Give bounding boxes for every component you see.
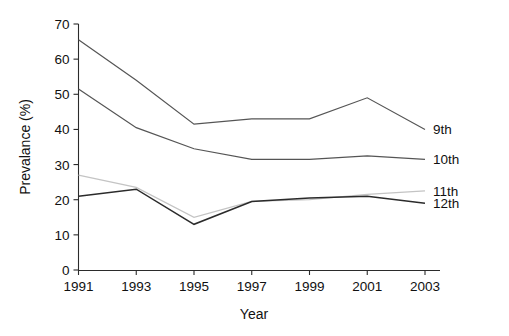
y-tick-label: 20 bbox=[54, 193, 69, 208]
y-axis: 010203040506070 Prevalance (%) bbox=[17, 17, 79, 278]
line-chart: 010203040506070 Prevalance (%) 199119931… bbox=[0, 0, 509, 336]
x-tick-label: 1995 bbox=[179, 279, 209, 294]
y-axis-tick-labels: 010203040506070 bbox=[54, 17, 69, 278]
x-tick-label: 2001 bbox=[352, 279, 382, 294]
y-tick-label: 10 bbox=[54, 228, 69, 243]
series-label-10th: 10th bbox=[433, 152, 459, 167]
y-tick-label: 0 bbox=[62, 263, 70, 278]
series-end-labels: 9th10th11th12th bbox=[433, 122, 459, 211]
y-axis-title: Prevalance (%) bbox=[17, 99, 33, 195]
x-tick-label: 2003 bbox=[410, 279, 440, 294]
x-axis-tick-labels: 1991199319951997199920012003 bbox=[63, 279, 440, 294]
chart-canvas: 010203040506070 Prevalance (%) 199119931… bbox=[0, 0, 509, 336]
series-lines bbox=[79, 40, 426, 225]
y-tick-label: 30 bbox=[54, 158, 69, 173]
x-tick-label: 1997 bbox=[237, 279, 267, 294]
series-label-9th: 9th bbox=[433, 122, 452, 137]
y-tick-label: 40 bbox=[54, 122, 69, 137]
x-tick-label: 1999 bbox=[294, 279, 324, 294]
y-tick-label: 50 bbox=[54, 87, 69, 102]
y-tick-label: 70 bbox=[54, 17, 69, 32]
x-axis-title: Year bbox=[240, 306, 269, 322]
y-tick-label: 60 bbox=[54, 52, 69, 67]
series-label-12th: 12th bbox=[433, 196, 459, 211]
series-line-9th bbox=[79, 40, 426, 130]
x-tick-label: 1993 bbox=[121, 279, 151, 294]
series-line-10th bbox=[79, 89, 426, 159]
x-tick-label: 1991 bbox=[63, 279, 93, 294]
x-axis: 1991199319951997199920012003 Year bbox=[63, 270, 440, 322]
y-axis-ticks bbox=[74, 24, 79, 270]
